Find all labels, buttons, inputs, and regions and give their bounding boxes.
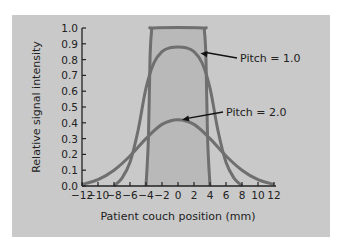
y-tick-label: 0.7 [61,69,78,81]
y-axis-title: Relative signal intensity [30,41,43,173]
line-chart: 0.00.10.20.30.40.50.60.70.80.91.0 −12−10… [0,0,342,251]
y-tick-label: 0.8 [61,54,78,66]
y-tick-label: 0.5 [61,101,78,113]
x-tick-label: −4 [138,189,154,201]
annotation-label: Pitch = 2.0 [226,106,286,119]
x-tick-label: 10 [251,189,264,201]
y-tick-label: 0.2 [61,148,78,160]
x-tick-label: −8 [106,189,121,201]
y-tick-label: 1.0 [61,22,78,34]
x-tick-label: 2 [191,189,198,201]
slice-profile-area [146,28,210,186]
x-axis-title: Patient couch position (mm) [100,210,255,223]
slice-profile-fill [146,28,210,186]
x-tick-label: 8 [239,189,246,201]
y-tick-label: 0.9 [61,38,78,50]
y-tick-label: 0.6 [61,85,78,97]
x-tick-label: 0 [175,189,182,201]
x-tick-label: −2 [154,189,169,201]
y-tick-label: 0.3 [61,133,78,145]
x-tick-label: 4 [207,189,214,201]
annotation-label: Pitch = 1.0 [240,52,300,65]
x-tick-label: −6 [122,189,138,201]
x-tick-label: 12 [267,189,280,201]
y-tick-label: 0.4 [61,117,78,129]
x-tick-label: 6 [223,189,230,201]
y-tick-label: 0.1 [61,164,78,176]
